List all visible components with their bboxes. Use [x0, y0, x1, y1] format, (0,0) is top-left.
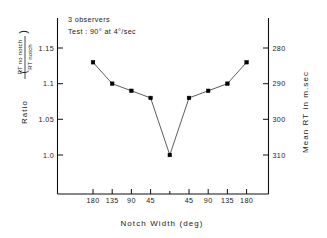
data-point: [226, 82, 230, 86]
y-axis-title: Ratio: [20, 100, 29, 124]
svg-text:Mean RT in m.sec: Mean RT in m.sec: [301, 71, 310, 153]
annotation-test-condition: Test : 90° at 4°/sec: [68, 27, 136, 36]
data-point: [110, 82, 114, 86]
y-axis-title-paren-close: ): [17, 30, 29, 34]
x-axis-tick-label: 180: [86, 196, 99, 205]
x-axis-tick-label: 45: [185, 196, 194, 205]
x-axis-title: Notch Width (deg): [120, 219, 203, 228]
x-axis-tick-label: 90: [127, 196, 136, 205]
right-axis-tick-label: 300: [273, 115, 286, 124]
y2-axis-title: Mean RT in m.sec: [301, 71, 310, 153]
chart-figure: 1.15 1.1 1.05 1.0 Ratio ( RT no notch RT…: [0, 0, 327, 238]
data-point: [245, 60, 249, 64]
right-axis-tick-label: 290: [273, 79, 286, 88]
left-axis-tick-label: 1.0: [43, 151, 54, 160]
y-axis-title-denominator: RT notch: [27, 44, 33, 70]
x-axis-tick-label: 45: [146, 196, 155, 205]
data-point: [130, 89, 134, 93]
y-axis-title-prefix: Ratio: [20, 100, 29, 124]
x-axis-tick-label: 135: [221, 196, 234, 205]
left-axis-tick-label: 1.05: [39, 115, 54, 124]
x-axis-tick-label: 135: [106, 196, 119, 205]
y-axis-title-numerator: RT no notch: [17, 40, 23, 75]
data-point: [91, 60, 95, 64]
svg-text:RT no notch: RT no notch: [17, 40, 23, 75]
right-axis-tick-label: 310: [273, 151, 286, 160]
x-axis-tick-label: 90: [204, 196, 213, 205]
left-axis-tick-label: 1.1: [43, 79, 54, 88]
data-point: [168, 153, 172, 157]
svg-text:RT notch: RT notch: [27, 44, 33, 70]
right-axis-tick-label: 280: [273, 44, 286, 53]
data-point: [149, 96, 153, 100]
annotation-observers: 3 observers: [68, 15, 110, 24]
x-axis-tick-label: 180: [240, 196, 253, 205]
svg-text:): ): [17, 30, 29, 34]
left-axis-tick-label: 1.15: [39, 44, 54, 53]
data-point: [187, 96, 191, 100]
data-point: [206, 89, 210, 93]
